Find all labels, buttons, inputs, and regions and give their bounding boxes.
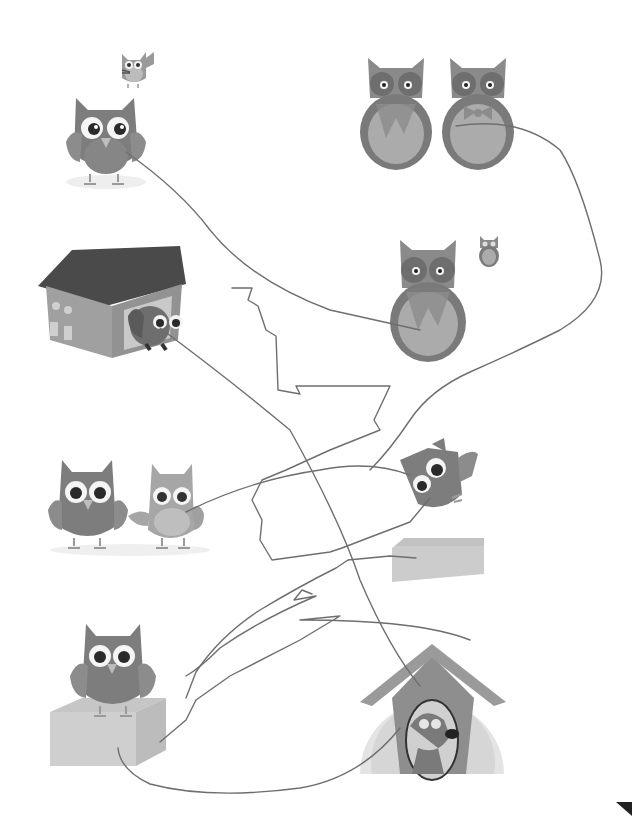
connection-line: [126, 152, 420, 330]
worksheet-canvas: [0, 0, 632, 819]
connection-line: [118, 728, 400, 793]
connection-line: [370, 124, 602, 470]
triangle-marker-icon: [616, 802, 632, 816]
connection-line: [186, 466, 410, 512]
connection-lines: [0, 0, 632, 819]
connection-line: [232, 288, 430, 560]
connection-line: [160, 328, 420, 686]
corner-triangle-marker: [616, 802, 632, 816]
connection-line: [160, 616, 470, 742]
connection-line: [186, 590, 316, 676]
